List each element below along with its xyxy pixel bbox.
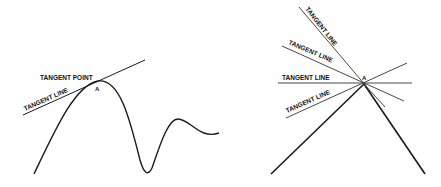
point-a-label: A — [362, 75, 367, 81]
tangent-line-label-1: TANGENT LINE — [304, 5, 339, 47]
right-diagram-corner: TANGENT LINE TANGENT LINE TANGENT LINE T… — [271, 5, 425, 174]
tangent-diagrams: TANGENT POINT TANGENT LINE A TANGENT LIN… — [0, 0, 441, 187]
tangent-line-4 — [286, 63, 407, 118]
left-diagram-smooth-curve: TANGENT POINT TANGENT LINE A — [23, 60, 219, 174]
tangent-line-label: TANGENT LINE — [23, 86, 70, 112]
point-a-label: A — [95, 86, 100, 92]
corner-right-leg — [364, 84, 425, 174]
tangent-point-label: TANGENT POINT — [40, 74, 93, 81]
tangent-line-label-2: TANGENT LINE — [288, 38, 335, 63]
tangent-line-label-3: TANGENT LINE — [282, 74, 330, 81]
tangent-line — [23, 60, 145, 115]
